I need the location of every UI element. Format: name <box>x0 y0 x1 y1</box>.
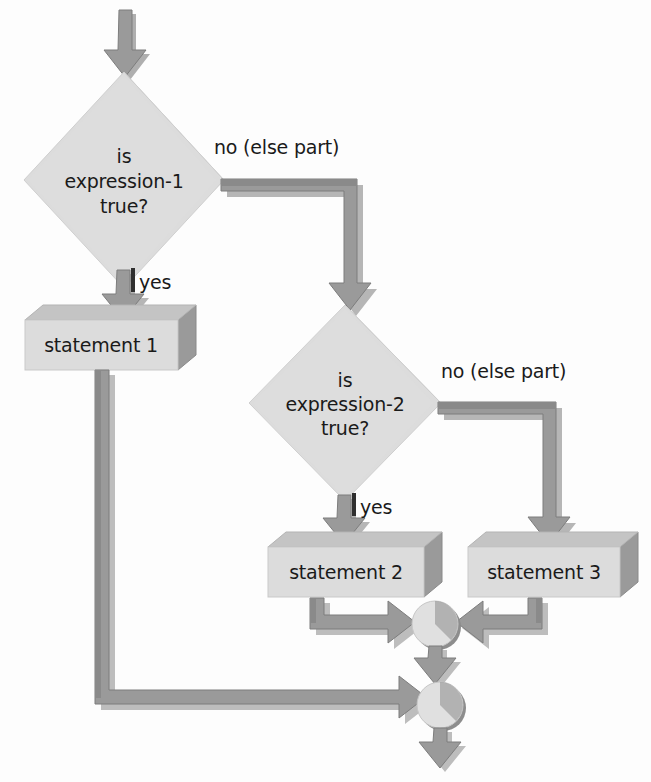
decision-1-no-label: no (else part) <box>214 136 339 158</box>
decision-1-no-path <box>221 179 377 316</box>
merge-connector-inner[interactable] <box>412 601 461 650</box>
decision-2-line1: is <box>338 369 353 391</box>
flowchart-svg: is expression-1 true? no (else part) yes <box>0 0 651 782</box>
statement-2-to-inner-merge-path <box>310 598 421 649</box>
decision-2-yes-label: yes <box>360 496 392 518</box>
statement-2-label: statement 2 <box>289 561 403 583</box>
statement-1-label: statement 1 <box>44 334 158 356</box>
decision-1-line2: expression-1 <box>64 170 183 192</box>
merge-connector-outer[interactable] <box>417 682 466 731</box>
decision-2-line2: expression-2 <box>285 393 404 415</box>
decision-1-line3: true? <box>100 195 148 217</box>
decision-1-line1: is <box>117 145 132 167</box>
entry-arrow <box>104 10 150 80</box>
decision-1-yes-label: yes <box>139 271 171 293</box>
decision-2-no-path <box>438 402 576 550</box>
flowchart-canvas: is expression-1 true? no (else part) yes <box>0 0 651 782</box>
exit-arrow <box>419 728 466 772</box>
decision-2-line3: true? <box>321 417 369 439</box>
statement-3-label: statement 3 <box>487 561 601 583</box>
decision-2-no-label: no (else part) <box>441 360 566 382</box>
statement-3-to-inner-merge-path <box>456 598 548 649</box>
